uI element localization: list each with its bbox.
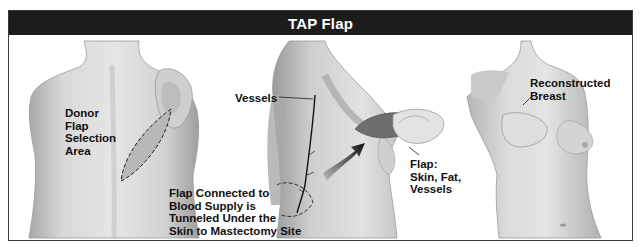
label-flap-skin-fat-vessels: Flap: Skin, Fat, Vessels bbox=[410, 158, 461, 196]
illustration-stage: Donor Flap Selection Area Vessels Flap C… bbox=[9, 35, 632, 241]
label-flap-tunneled: Flap Connected to Blood Supply is Tunnel… bbox=[169, 187, 301, 237]
figure-title: TAP Flap bbox=[9, 11, 632, 35]
label-vessels: Vessels bbox=[235, 92, 277, 105]
figure-frame: TAP Flap bbox=[8, 10, 633, 241]
label-donor-flap-selection-area: Donor Flap Selection Area bbox=[65, 107, 116, 157]
label-reconstructed-breast: Reconstructed Breast bbox=[530, 77, 611, 102]
front-torso-illustration bbox=[467, 41, 601, 238]
